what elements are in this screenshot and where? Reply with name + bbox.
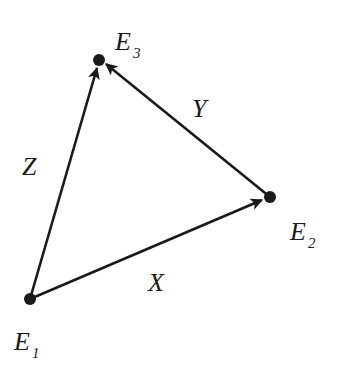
edge-x-arrow: [30, 200, 262, 299]
node-e1-dot: [24, 293, 36, 305]
node-e1-label: E1: [13, 327, 39, 361]
node-e2-label: E2: [289, 217, 316, 251]
edge-z-label: Z: [22, 152, 37, 181]
node-e3-dot: [93, 54, 105, 66]
edge-y-label: Y: [192, 94, 209, 123]
node-e3-label: E3: [114, 27, 140, 61]
diagram-canvas: E3 E2 E1 Z Y X: [0, 0, 339, 380]
edge-y-arrow: [106, 64, 270, 197]
edge-x-label: X: [147, 268, 165, 297]
edge-z-arrow: [30, 68, 97, 299]
vector-triangle-diagram: E3 E2 E1 Z Y X: [0, 0, 339, 380]
node-e2-dot: [264, 191, 276, 203]
